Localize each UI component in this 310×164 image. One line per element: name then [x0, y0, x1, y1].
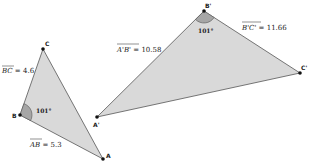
geometry-canvas: A B C 101° BC = 4.6 AB = 5.3 A' B' C' 10… [0, 0, 310, 164]
label-c-prime: C' [301, 64, 307, 71]
triangle-a-prime-b-prime-c-prime: A' B' C' 101° A'B' = 10.58 B'C' = 11.66 [93, 2, 307, 128]
point-a-prime[interactable] [95, 115, 99, 119]
label-a-prime: A' [93, 121, 100, 128]
label-a: A [106, 152, 111, 159]
segment-ab-label: AB = 5.3 [29, 141, 62, 149]
point-c[interactable] [41, 47, 45, 51]
label-b: B [12, 112, 17, 119]
point-c-prime[interactable] [298, 71, 302, 75]
segment-b-prime-c-prime-label: B'C' = 11.66 [241, 24, 287, 32]
label-c: C [45, 40, 50, 47]
triangle-abc: A B C 101° BC = 4.6 AB = 5.3 [1, 40, 111, 161]
angle-b-prime-label: 101° [198, 27, 214, 34]
segment-bc-label: BC = 4.6 [1, 67, 35, 75]
point-b[interactable] [18, 113, 22, 117]
point-b-prime[interactable] [202, 9, 206, 13]
angle-b-label: 101° [36, 107, 52, 114]
segment-a-prime-b-prime-label: A'B' = 10.58 [116, 46, 161, 54]
point-a[interactable] [101, 157, 105, 161]
label-b-prime: B' [205, 2, 212, 9]
